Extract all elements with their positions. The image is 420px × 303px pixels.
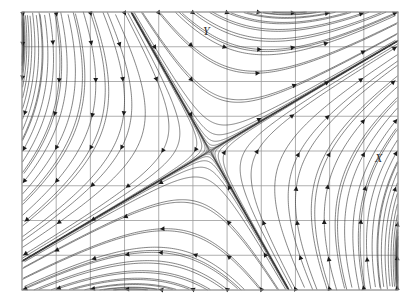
phase-portrait-figure: Y X [0,0,420,303]
y-axis-label: Y [203,25,210,37]
x-axis-label: X [375,152,382,164]
streamplot-canvas [0,0,420,303]
